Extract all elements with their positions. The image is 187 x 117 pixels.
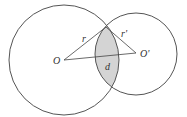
label-r-prime: r' — [121, 28, 128, 39]
label-O-prime: O' — [140, 48, 150, 59]
label-r: r — [82, 33, 86, 44]
label-O: O — [53, 55, 60, 66]
intersecting-circles-diagram: O O' r r' d — [0, 0, 187, 117]
